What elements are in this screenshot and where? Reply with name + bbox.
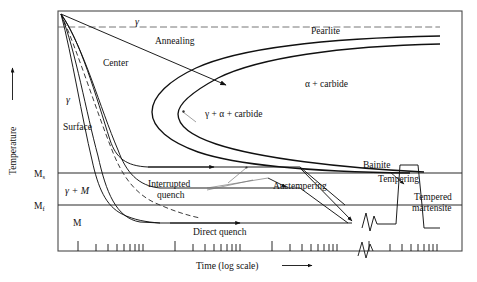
y-axis-title-group: Temperature	[7, 68, 18, 175]
ms-sub: s	[42, 173, 45, 180]
label-tempered-martensite-line2: martensite	[412, 203, 452, 213]
x-axis-title-group: Time (log scale)	[196, 260, 312, 272]
label-gamma-plus-m: γ + M	[65, 185, 90, 196]
mf-sub: f	[42, 205, 45, 212]
label-tempering: Tempering	[378, 174, 419, 184]
label-tempered-martensite-line1: Tempered	[414, 192, 452, 202]
y-tick-mf: Mf	[34, 201, 45, 212]
label-gamma-alpha-carbide: γ + α + carbide	[204, 109, 262, 119]
plot-frame	[58, 11, 462, 251]
label-gamma-left: γ	[66, 94, 71, 105]
annealing-curve	[61, 14, 226, 85]
label-interrupted-quench-line1: Interrupted	[148, 179, 190, 189]
y-axis-title: Temperature	[7, 127, 18, 175]
label-interrupted-quench-line2: quench	[157, 190, 185, 200]
label-surface: Surface	[63, 122, 92, 132]
ttt-diagram-svg: γ γ Annealing Center Surface Pearlite α …	[0, 0, 477, 282]
label-annealing: Annealing	[155, 36, 195, 46]
y-tick-ms: Ms	[34, 169, 45, 180]
label-alpha-carbide: α + carbide	[305, 79, 348, 89]
svg-text:Ms: Ms	[34, 169, 45, 180]
ttt-finish-curve	[178, 44, 440, 172]
label-pearlite: Pearlite	[311, 26, 340, 36]
x-axis-log-ticks	[78, 241, 437, 251]
x-axis-break-squiggle	[358, 242, 373, 258]
axis-break-squiggle-curve	[362, 213, 377, 231]
figure-root: γ γ Annealing Center Surface Pearlite α …	[0, 0, 477, 282]
svg-text:Mf: Mf	[34, 201, 45, 212]
label-center: Center	[103, 58, 129, 68]
label-martensite: M	[73, 218, 82, 228]
x-axis-title: Time (log scale)	[196, 260, 259, 272]
label-bainite: Bainite	[363, 160, 390, 170]
label-austempering: Austempering	[273, 181, 327, 191]
label-direct-quench: Direct quench	[193, 227, 247, 237]
label-gamma-top: γ	[135, 16, 140, 27]
